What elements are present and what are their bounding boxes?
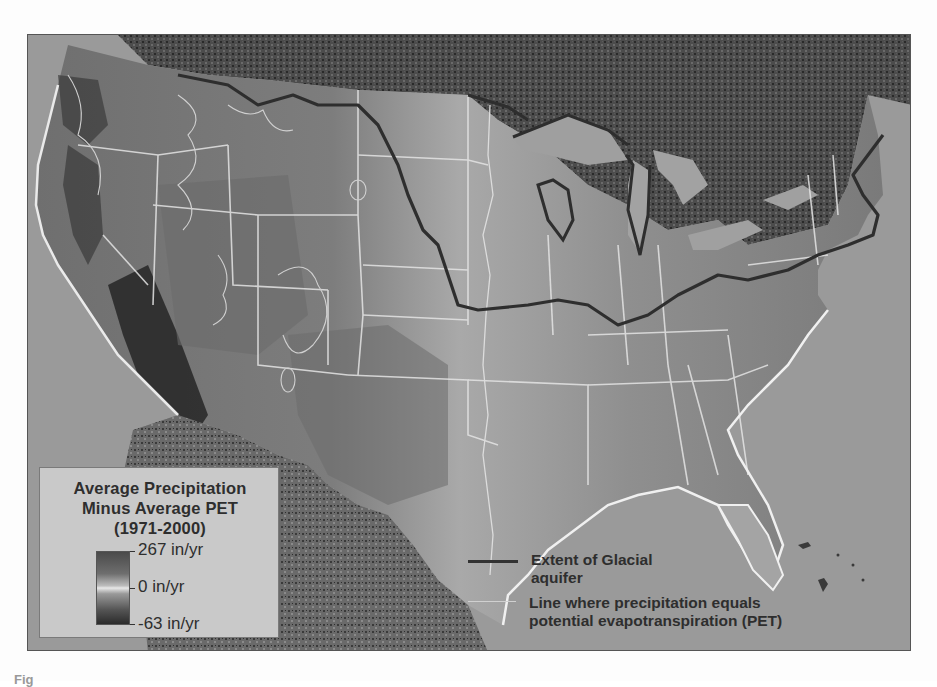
glacial-extent-label-2: aquifer: [531, 569, 583, 586]
legend-title-line-1: Average Precipitation: [40, 478, 280, 498]
map-frame: Average Precipitation Minus Average PET …: [27, 34, 911, 651]
figure-caption-fragment: Fig: [14, 672, 34, 687]
colorbar-tick-mid: [130, 588, 135, 589]
colorbar-legend: Average Precipitation Minus Average PET …: [39, 467, 279, 638]
glacial-extent-label-1: Extent of Glacial: [531, 551, 652, 568]
colorbar-mid-label: 0 in/yr: [138, 577, 184, 597]
line-legend: Extent of Glacial aquifer Line where pre…: [468, 550, 888, 650]
colorbar-min-label: -63 in/yr: [138, 614, 199, 634]
pet-line-label-2: potential evapotranspiration (PET): [529, 612, 782, 629]
legend-title-line-2: Minus Average PET: [40, 498, 280, 518]
legend-title-line-3: (1971-2000): [40, 518, 280, 538]
colorbar-tick-min: [130, 624, 135, 625]
colorbar-max-label: 267 in/yr: [138, 540, 203, 560]
legend-title: Average Precipitation Minus Average PET …: [40, 478, 280, 538]
glacial-extent-swatch: [468, 560, 518, 563]
pet-line-label-1: Line where precipitation equals: [529, 594, 761, 611]
pet-line-swatch: [468, 601, 516, 602]
colorbar-tick-max: [130, 551, 135, 552]
colorbar-gradient: [96, 551, 130, 625]
